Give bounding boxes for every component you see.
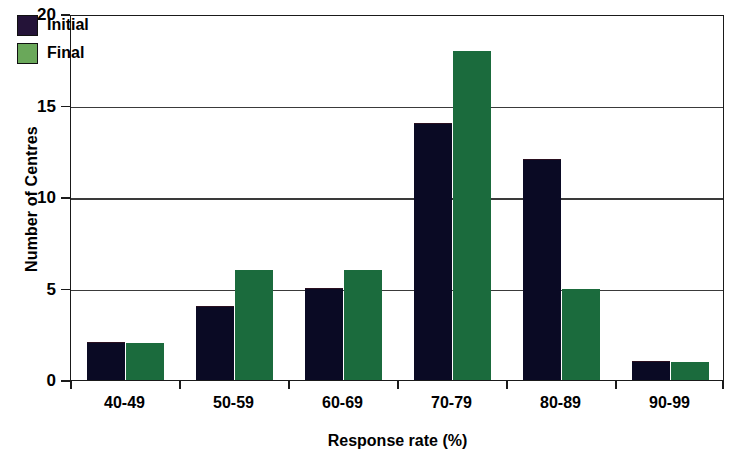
bar-initial-80-89 [523,159,561,380]
bar-initial-40-49 [87,342,125,380]
x-axis-title: Response rate (%) [70,432,725,450]
bar-initial-60-69 [305,288,343,381]
x-tick-mark [179,381,181,389]
bar-initial-50-59 [196,306,234,380]
y-tick-mark [61,106,70,108]
legend-item-final: Final [17,41,89,65]
x-tick-mark [397,381,399,389]
y-tick-label: 0 [2,371,56,391]
y-axis-ticks: 05101520 [0,15,70,381]
x-tick-mark [615,381,617,389]
y-tick-mark [61,289,70,291]
legend-swatch-initial [17,15,38,36]
bar-initial-70-79 [414,123,452,380]
x-tick-label: 50-59 [213,394,254,412]
x-tick-label: 60-69 [322,394,363,412]
legend-label: Final [47,45,84,61]
legend-swatch-final [17,43,38,64]
chart-figure: Number of Centres 05101520 40-4950-5960-… [0,0,730,465]
bar-final-90-99 [671,362,709,380]
legend-label: Initial [47,17,89,33]
x-tick-mark [722,381,724,389]
bar-final-70-79 [453,51,491,380]
bar-final-40-49 [126,343,164,380]
gridline [71,107,723,109]
x-tick-mark [506,381,508,389]
x-tick-mark [70,381,72,389]
legend-item-initial: Initial [17,13,89,37]
gridline [71,290,723,292]
gridline [71,198,723,200]
y-tick-label: 15 [2,97,56,117]
x-tick-label: 70-79 [431,394,472,412]
y-tick-label: 10 [2,188,56,208]
chart-legend: InitialFinal [17,13,89,69]
x-axis-ticks: 40-4950-5960-6970-7980-8990-99 [70,381,724,426]
y-tick-mark [61,197,70,199]
bar-final-50-59 [235,270,273,380]
bar-initial-90-99 [632,361,670,380]
x-tick-label: 90-99 [649,394,690,412]
y-tick-mark [61,380,70,382]
bar-final-60-69 [344,270,382,380]
y-tick-label: 5 [2,280,56,300]
bar-final-80-89 [562,289,600,381]
x-tick-label: 40-49 [104,394,145,412]
plot-area [70,15,724,381]
plot-inner [71,16,723,380]
x-tick-mark [288,381,290,389]
x-tick-label: 80-89 [540,394,581,412]
